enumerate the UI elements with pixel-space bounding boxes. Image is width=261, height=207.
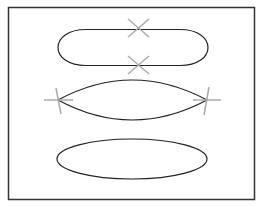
x-marker-top [128,19,149,37]
lens-middle [58,80,207,120]
diagram-canvas [0,0,261,207]
diagram-frame [9,8,255,200]
ellipse-bottom [57,139,207,179]
plus-marker-left [44,88,73,114]
plus-marker-right [193,87,221,115]
